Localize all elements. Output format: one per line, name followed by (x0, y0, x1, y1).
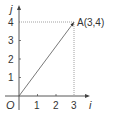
y-tick-label-1: 1 (8, 72, 14, 83)
y-axis-arrow-icon (17, 5, 21, 10)
x-tick-label-2: 2 (53, 100, 59, 111)
y-axis-label: j (8, 3, 13, 15)
x-axis-label: i (89, 99, 92, 111)
point-A-label: A(3,4) (77, 17, 104, 28)
y-tick-label-4: 4 (8, 17, 14, 28)
segment-OA (19, 24, 73, 97)
y-tick-label-3: 3 (8, 35, 14, 46)
y-tick-label-2: 2 (8, 54, 14, 65)
x-axis-arrow-icon (85, 94, 90, 98)
coordinate-diagram: j i O 1 2 3 1 2 3 4 A(3,4) (0, 0, 113, 119)
origin-label: O (6, 99, 15, 111)
x-tick-label-1: 1 (34, 100, 40, 111)
x-tick-label-3: 3 (71, 100, 77, 111)
